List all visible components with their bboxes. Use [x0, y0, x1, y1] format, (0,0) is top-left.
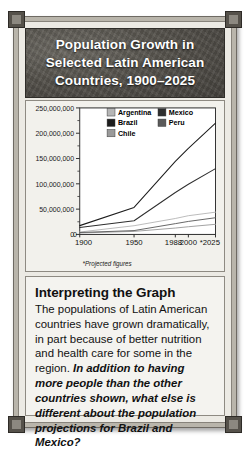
figure-title-line-2: Selected Latin American — [46, 55, 205, 70]
x-axis-tick-label: 1900 — [75, 238, 93, 247]
legend-label-argentina: Argentina — [118, 108, 152, 117]
decorative-outer-frame: Population Growth in Selected Latin Amer… — [13, 16, 237, 428]
interpreting-heading: Interpreting the Graph — [35, 285, 215, 300]
interpreting-body: The populations of Latin American countr… — [35, 302, 215, 450]
legend-label-brazil: Brazil — [118, 118, 137, 127]
y-axis-tick-label: 50,000,000 — [39, 206, 74, 214]
legend-swatch-argentina — [107, 109, 115, 116]
figure-title: Population Growth in Selected Latin Amer… — [40, 36, 211, 90]
corner-bracket-top-right — [225, 11, 242, 28]
chart-footnote: *Projected figures — [83, 260, 133, 268]
y-axis-tick-label: 250,000,000 — [35, 105, 74, 113]
interpreting-question: In addition to having more people than t… — [35, 362, 196, 448]
legend-label-mexico: Mexico — [169, 108, 194, 117]
figure-title-line-1: Population Growth in — [56, 37, 194, 52]
y-axis-tick-label: 200,000,000 — [35, 130, 74, 138]
y-axis-zero-label: 0 — [73, 231, 77, 239]
figure-root: Population Growth in Selected Latin Amer… — [0, 0, 250, 459]
figure-title-line-3: Countries, 1900–2025 — [55, 73, 195, 88]
legend-swatch-chile — [107, 129, 115, 136]
figure-title-banner: Population Growth in Selected Latin Amer… — [25, 28, 225, 98]
legend-swatch-brazil — [107, 119, 115, 126]
legend-swatch-peru — [158, 119, 166, 126]
x-axis-tick-label: *2025 — [200, 238, 221, 247]
frame-inner-panel: Population Growth in Selected Latin Amer… — [18, 21, 232, 423]
plot-area-frame — [80, 108, 216, 235]
legend-label-chile: Chile — [118, 128, 135, 137]
legend-label-peru: Peru — [169, 118, 185, 127]
legend-swatch-mexico — [158, 109, 166, 116]
corner-bracket-top-left — [8, 11, 25, 28]
line-chart-panel: 050,000,000100,000,000150,000,000200,000… — [25, 100, 225, 272]
x-axis-tick-label: 1950 — [125, 238, 143, 247]
population-line-chart: 050,000,000100,000,000150,000,000200,000… — [26, 101, 224, 271]
x-axis-tick-label: 2000 — [180, 238, 198, 247]
corner-bracket-bottom-left — [8, 416, 25, 433]
y-axis-tick-label: 150,000,000 — [35, 155, 74, 163]
corner-bracket-bottom-right — [225, 416, 242, 433]
y-axis-tick-label: 100,000,000 — [35, 180, 74, 188]
interpreting-the-graph-panel: Interpreting the Graph The populations o… — [25, 276, 225, 416]
